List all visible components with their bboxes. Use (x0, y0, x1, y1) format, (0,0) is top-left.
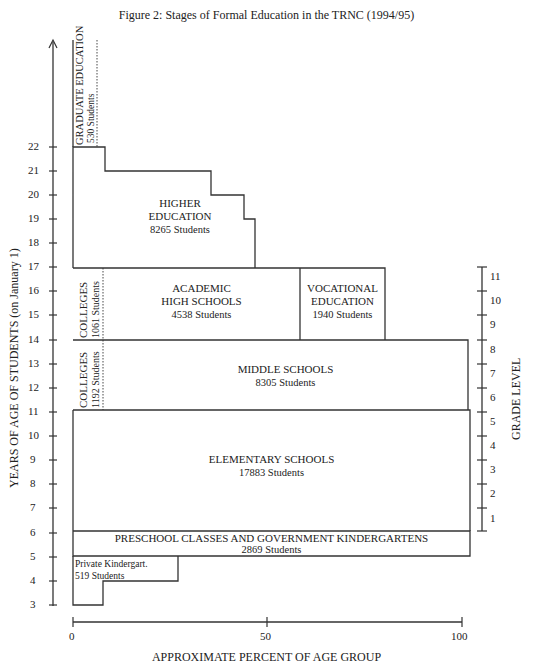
y-tick-21: 21 (28, 164, 39, 176)
y-tick-6: 6 (30, 526, 36, 538)
private-kindergarten-count: 519 Students (75, 570, 148, 582)
y-tick-4: 4 (30, 574, 36, 586)
y-tick-19: 19 (28, 212, 39, 224)
elementary-schools-count: 17883 Students (73, 466, 470, 479)
grade-axis-label: GRADE LEVEL (510, 358, 522, 440)
grade-tick-11: 11 (490, 270, 501, 282)
middle-schools-count: 8305 Students (103, 376, 468, 389)
grade-tick-1: 1 (490, 512, 496, 524)
preschool-count: 2869 Students (73, 544, 470, 556)
grade-tick-4: 4 (490, 439, 496, 451)
academic-high-schools-block: ACADEMIC HIGH SCHOOLS 4538 Students (103, 282, 300, 321)
colleges-upper-label: COLLEGES (77, 282, 89, 338)
y-tick-14: 14 (28, 333, 39, 345)
colleges-upper-count: 1061 Students (90, 281, 102, 338)
y-axis-label: YEARS OF AGE OF STUDENTS (on January 1) (8, 248, 20, 488)
grade-tick-6: 6 (490, 391, 496, 403)
y-tick-9: 9 (30, 453, 36, 465)
vocational-line1: VOCATIONAL (300, 282, 385, 295)
y-tick-17: 17 (28, 260, 39, 272)
private-kindergarten-label: Private Kindergart. (75, 558, 148, 570)
colleges-lower-label: COLLEGES (77, 352, 89, 408)
preschool-label: PRESCHOOL CLASSES AND GOVERNMENT KINDERG… (73, 532, 470, 544)
grade-tick-8: 8 (490, 343, 496, 355)
y-tick-18: 18 (28, 236, 39, 248)
middle-schools-block: MIDDLE SCHOOLS 8305 Students (103, 363, 468, 389)
y-tick-20: 20 (28, 188, 39, 200)
x-tick-50: 50 (260, 630, 271, 642)
y-tick-8: 8 (30, 477, 36, 489)
y-tick-11: 11 (28, 405, 39, 417)
vocational-line2: EDUCATION (300, 295, 385, 308)
vocational-education-block: VOCATIONAL EDUCATION 1940 Students (300, 282, 385, 321)
y-tick-16: 16 (28, 284, 39, 296)
private-kindergarten-block: Private Kindergart. 519 Students (75, 558, 148, 582)
y-tick-12: 12 (28, 381, 39, 393)
higher-education-block: HIGHER EDUCATION 8265 Students (105, 197, 255, 236)
vocational-count: 1940 Students (300, 308, 385, 321)
x-tick-0: 0 (69, 630, 75, 642)
elementary-schools-block: ELEMENTARY SCHOOLS 17883 Students (73, 453, 470, 479)
grade-tick-2: 2 (490, 487, 496, 499)
grade-tick-9: 9 (490, 318, 496, 330)
y-tick-22: 22 (28, 140, 39, 152)
y-tick-3: 3 (30, 598, 36, 610)
grade-tick-5: 5 (490, 415, 496, 427)
middle-schools-label: MIDDLE SCHOOLS (103, 363, 468, 376)
higher-education-line2: EDUCATION (105, 210, 255, 223)
academic-line2: HIGH SCHOOLS (103, 295, 300, 308)
x-tick-100: 100 (451, 630, 468, 642)
grade-tick-10: 10 (490, 294, 501, 306)
x-axis-label: APPROXIMATE PERCENT OF AGE GROUP (0, 650, 533, 665)
y-tick-15: 15 (28, 308, 39, 320)
y-tick-10: 10 (28, 429, 39, 441)
academic-count: 4538 Students (103, 308, 300, 321)
academic-line1: ACADEMIC (103, 282, 300, 295)
colleges-lower-count: 1192 Students (90, 351, 102, 408)
y-tick-7: 7 (30, 501, 36, 513)
y-tick-5: 5 (30, 550, 36, 562)
elementary-schools-label: ELEMENTARY SCHOOLS (73, 453, 470, 466)
grade-tick-3: 3 (490, 463, 496, 475)
preschool-block: PRESCHOOL CLASSES AND GOVERNMENT KINDERG… (73, 532, 470, 556)
higher-education-line1: HIGHER (105, 197, 255, 210)
higher-education-count: 8265 Students (105, 223, 255, 236)
grade-tick-7: 7 (490, 367, 496, 379)
y-tick-13: 13 (28, 357, 39, 369)
graduate-count: 530 Students (85, 94, 97, 143)
